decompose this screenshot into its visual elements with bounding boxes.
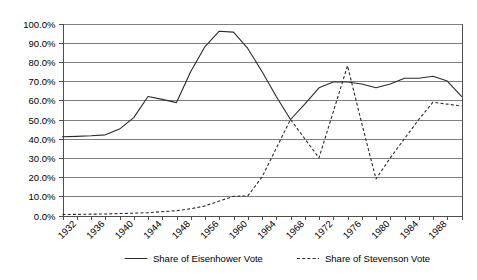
axis-lines	[63, 24, 463, 217]
x-tick-label: 1956	[198, 218, 221, 241]
x-tick-label: 1976	[340, 218, 363, 241]
x-tick-label: 1972	[312, 218, 335, 241]
x-tick-label: 1936	[84, 218, 107, 241]
y-tick-label: 90.0%	[29, 38, 56, 49]
x-tick-label: 1940	[112, 218, 135, 241]
y-tick-label: 60.0%	[29, 95, 56, 106]
x-tick-label: 1944	[141, 218, 164, 241]
data-series	[63, 31, 462, 214]
legend-label-1: Share of Eisenhower Vote	[153, 253, 263, 264]
y-tick-label: 0.0%	[34, 211, 56, 222]
y-tick-label: 70.0%	[29, 76, 56, 87]
y-tick-label: 20.0%	[29, 172, 56, 183]
legend-label-2: Share of Stevenson Vote	[325, 253, 430, 264]
y-axis-tick-labels: 0.0%10.0%20.0%30.0%40.0%50.0%60.0%70.0%8…	[23, 19, 56, 222]
x-tick-label: 1964	[255, 218, 278, 241]
x-tick-label: 1948	[169, 218, 192, 241]
gridlines	[63, 25, 462, 217]
x-tick-label: 1932	[55, 218, 78, 241]
x-axis-tick-labels: 1932193619401944194819561960196419681972…	[55, 218, 448, 241]
chart-legend: Share of Eisenhower VoteShare of Stevens…	[125, 253, 430, 264]
x-tick-label: 1968	[283, 218, 306, 241]
x-tick-label: 1988	[426, 218, 449, 241]
chart-container: 0.0%10.0%20.0%30.0%40.0%50.0%60.0%70.0%8…	[0, 0, 477, 280]
y-tick-label: 10.0%	[29, 191, 56, 202]
series-line-2	[63, 66, 462, 215]
line-chart: 0.0%10.0%20.0%30.0%40.0%50.0%60.0%70.0%8…	[0, 0, 477, 280]
x-tick-label: 1984	[397, 218, 420, 241]
y-tick-label: 50.0%	[29, 115, 56, 126]
x-tick-label: 1980	[369, 218, 392, 241]
y-tick-label: 30.0%	[29, 153, 56, 164]
x-tick-label: 1960	[226, 218, 249, 241]
y-tick-label: 100.0%	[23, 19, 56, 30]
y-tick-label: 40.0%	[29, 134, 56, 145]
y-tick-label: 80.0%	[29, 57, 56, 68]
y-axis-tick-marks	[59, 25, 63, 217]
